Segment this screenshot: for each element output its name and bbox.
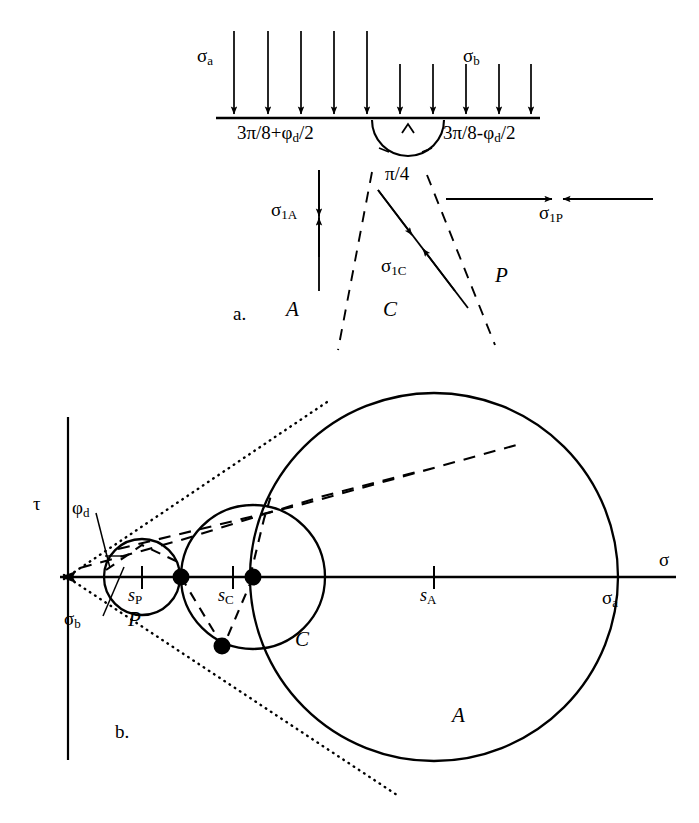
pole-dot-left bbox=[173, 569, 190, 586]
figure-svg bbox=[0, 0, 699, 823]
panel-a-graphics bbox=[216, 31, 653, 350]
label-zone-C-panel-a: C bbox=[383, 299, 397, 320]
failure-envelope-upper bbox=[64, 400, 330, 579]
label-sigma-1C: σ1C bbox=[381, 256, 406, 277]
label-angle-right: 3π/8-φd/2 bbox=[443, 123, 515, 144]
label-center-sP: sP bbox=[128, 586, 142, 606]
pole-line-A-upper bbox=[118, 444, 520, 549]
label-circle-A: A bbox=[452, 705, 465, 726]
pole-dot-mid bbox=[245, 569, 262, 586]
surcharge-arrows-left bbox=[234, 31, 367, 114]
fan-arc-ticks bbox=[379, 124, 432, 152]
panel-a-tag: a. bbox=[233, 304, 246, 323]
label-sigma-1A: σ1A bbox=[271, 200, 297, 221]
label-zone-P-panel-a: P bbox=[495, 265, 508, 286]
label-center-sC: sC bbox=[218, 586, 234, 606]
label-sigma-1P: σ1P bbox=[539, 203, 563, 224]
label-center-sA: sA bbox=[420, 586, 436, 606]
label-fan-angle: π/4 bbox=[385, 164, 409, 183]
label-circle-P: P bbox=[128, 609, 141, 630]
label-sigma-axis: σ bbox=[659, 550, 669, 569]
slip-line-AC bbox=[338, 172, 372, 350]
panel-b-graphics bbox=[60, 393, 676, 797]
surcharge-arrows-right bbox=[400, 64, 531, 114]
pole-dot-lower bbox=[214, 638, 231, 655]
pole-line-left-down bbox=[181, 577, 222, 645]
sigma1C-arrow-down bbox=[378, 190, 412, 235]
label-sigma-b-panel-a: σb bbox=[463, 46, 480, 67]
label-phi-d: φd bbox=[72, 498, 89, 519]
label-sigma-a-panel-a: σa bbox=[197, 46, 213, 67]
slip-line-CP bbox=[427, 175, 495, 345]
panel-b-tag: b. bbox=[115, 722, 129, 741]
label-sigma-a-panel-b: σa bbox=[602, 588, 618, 609]
label-tau-axis: τ bbox=[33, 494, 41, 513]
figure-root: σa σb 3π/8+φd/2 3π/8-φd/2 π/4 σ1A σ1C σ1… bbox=[0, 0, 699, 823]
sigma1C-arrow-up bbox=[423, 249, 455, 291]
failure-envelope-lower bbox=[64, 575, 400, 797]
label-zone-A-panel-a: A bbox=[286, 299, 299, 320]
label-angle-left: 3π/8+φd/2 bbox=[237, 123, 314, 144]
label-sigma-b-panel-b: σb bbox=[64, 609, 81, 630]
label-circle-C: C bbox=[295, 629, 309, 650]
